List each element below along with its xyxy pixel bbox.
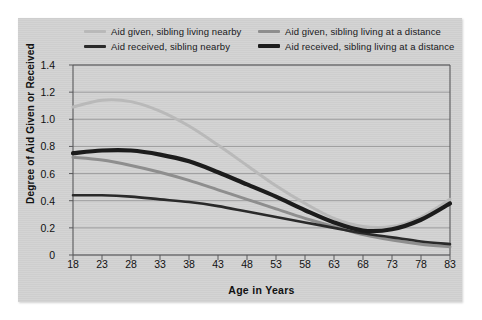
y-tick-label: 1.2: [25, 86, 55, 98]
x-tick-label: 73: [386, 258, 398, 270]
y-tick-label: 0.2: [25, 222, 55, 234]
y-tick-label: 1.0: [25, 113, 55, 125]
x-tick-label: 48: [241, 258, 253, 270]
y-tick-label: 0.6: [25, 168, 55, 180]
x-tick-label: 53: [270, 258, 282, 270]
x-tick-label: 23: [96, 258, 108, 270]
x-tick-label: 18: [67, 258, 79, 270]
x-tick-label: 78: [415, 258, 427, 270]
x-tick-label: 58: [299, 258, 311, 270]
plot-area: [0, 0, 482, 320]
y-tick-label: 0.4: [25, 195, 55, 207]
x-tick-label: 43: [212, 258, 224, 270]
y-tick-label: 0: [25, 249, 55, 261]
x-tick-label: 63: [328, 258, 340, 270]
x-tick-label: 83: [444, 258, 456, 270]
x-tick-label: 38: [183, 258, 195, 270]
series-line-3: [73, 150, 450, 231]
y-axis-tick-labels: 00.20.40.60.81.01.21.4: [25, 0, 55, 320]
x-tick-label: 33: [154, 258, 166, 270]
figure: Aid given, sibling living nearby Aid giv…: [0, 0, 482, 320]
x-tick-label: 68: [357, 258, 369, 270]
x-axis-title: Age in Years: [73, 284, 450, 296]
x-tick-label: 28: [125, 258, 137, 270]
y-tick-label: 0.8: [25, 140, 55, 152]
y-tick-label: 1.4: [25, 59, 55, 71]
series-line-1: [73, 157, 450, 247]
